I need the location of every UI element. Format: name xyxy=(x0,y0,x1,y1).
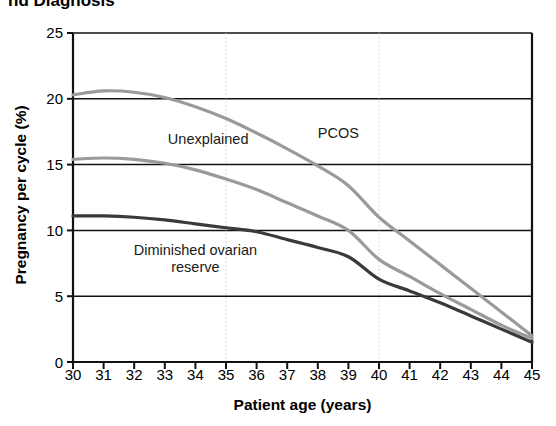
y-tick-label: 5 xyxy=(35,289,63,304)
series-label-line-2: reserve xyxy=(134,259,257,275)
x-axis-title: Patient age (years) xyxy=(73,396,532,414)
series-lines xyxy=(73,91,532,342)
chart-container: nd Diagnosis Pregnancy per cycle (%) Pat… xyxy=(0,0,556,426)
plot-area xyxy=(0,0,556,426)
vertical-gridlines xyxy=(226,33,379,362)
x-tick-label: 45 xyxy=(517,367,547,382)
axis-ticks xyxy=(67,33,532,369)
series-label-pcos: PCOS xyxy=(318,125,359,141)
x-tick-label: 30 xyxy=(58,367,88,382)
x-tick-label: 44 xyxy=(486,367,516,382)
y-axis-title: Pregnancy per cycle (%) xyxy=(12,70,30,320)
x-tick-label: 39 xyxy=(333,367,363,382)
x-tick-label: 36 xyxy=(242,367,272,382)
series-label-line-1: Diminished ovarian xyxy=(134,242,257,258)
series-label-unexplained: Unexplained xyxy=(168,131,249,147)
x-tick-label: 38 xyxy=(303,367,333,382)
series-label-diminished-ovarian-reserve: Diminished ovarian reserve xyxy=(134,242,257,274)
x-tick-label: 35 xyxy=(211,367,241,382)
y-tick-label: 15 xyxy=(35,157,63,172)
x-tick-label: 41 xyxy=(395,367,425,382)
x-tick-label: 32 xyxy=(119,367,149,382)
x-tick-label: 40 xyxy=(364,367,394,382)
x-tick-label: 31 xyxy=(89,367,119,382)
x-tick-label: 43 xyxy=(456,367,486,382)
x-tick-label: 34 xyxy=(180,367,210,382)
y-axis-tick-labels: 25 20 15 10 5 0 xyxy=(30,0,63,426)
y-tick-label: 25 xyxy=(35,25,63,40)
y-tick-label: 20 xyxy=(35,91,63,106)
x-tick-label: 33 xyxy=(150,367,180,382)
x-tick-label: 42 xyxy=(425,367,455,382)
y-tick-label: 10 xyxy=(35,223,63,238)
x-tick-label: 37 xyxy=(272,367,302,382)
